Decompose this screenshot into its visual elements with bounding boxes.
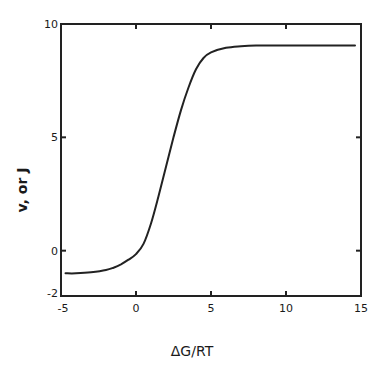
- x-axis-title: ΔG/RT: [171, 343, 214, 359]
- x-tick-label: 10: [279, 302, 293, 315]
- chart: -5051015 -20510 ΔG/RT v, or J: [0, 0, 378, 370]
- x-tick-label: -5: [58, 302, 69, 315]
- y-tick-label: 0: [51, 245, 58, 258]
- plot-border: [61, 24, 361, 296]
- y-tick-label: 10: [44, 18, 58, 31]
- x-tick-label: 15: [354, 302, 368, 315]
- y-axis-title: v, or J: [14, 168, 30, 213]
- data-curve: [66, 45, 356, 273]
- x-tick-labels: -5051015: [58, 302, 368, 315]
- x-tick-label: 5: [208, 302, 215, 315]
- x-tick-label: 0: [133, 302, 140, 315]
- axis-ticks: [61, 24, 361, 296]
- y-tick-labels: -20510: [44, 18, 58, 300]
- plot-frame: [61, 24, 361, 296]
- y-tick-label: -2: [47, 287, 58, 300]
- y-tick-label: 5: [51, 131, 58, 144]
